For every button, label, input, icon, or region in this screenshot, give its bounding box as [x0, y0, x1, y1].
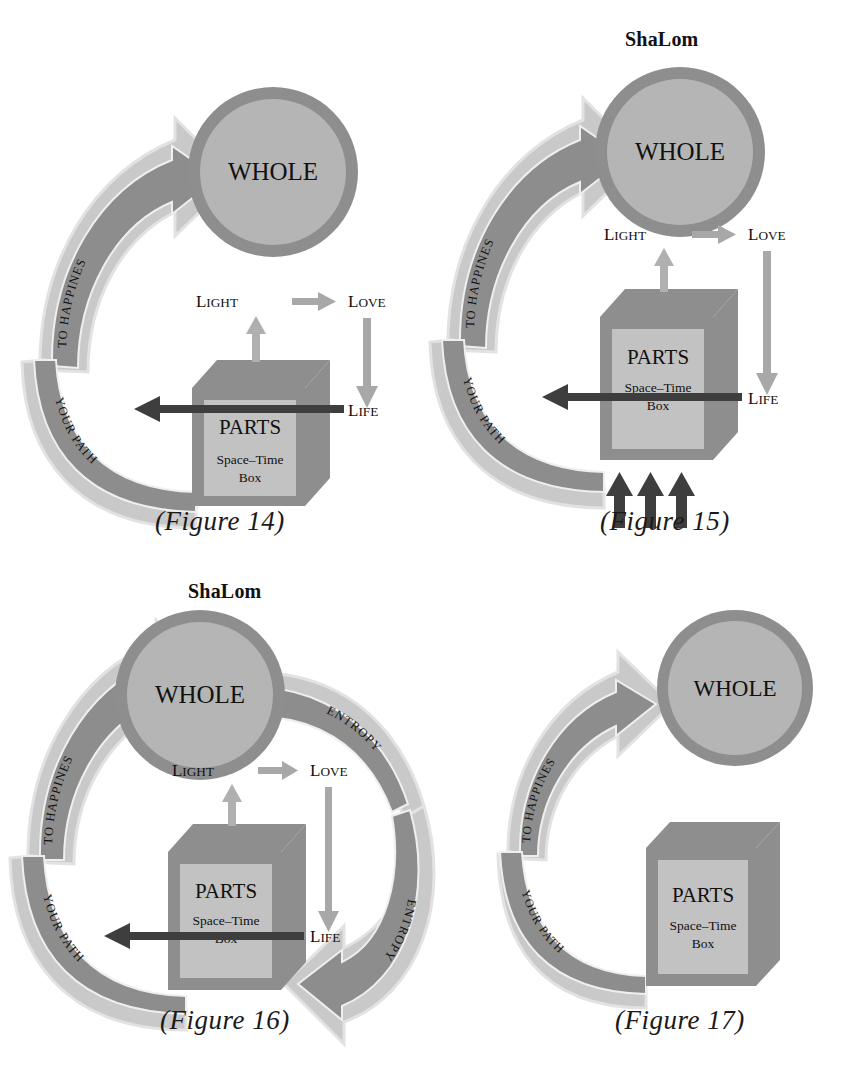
light-to-love-arrow — [258, 761, 298, 780]
life-label: LIFE — [310, 927, 340, 946]
love-to-life-arrow — [756, 251, 778, 395]
whole-circle: WHOLE — [657, 610, 813, 766]
your-path-arrow: YOUR PATH — [10, 856, 190, 1030]
shalom-heading-figure-15: ShaLom — [625, 28, 698, 51]
space-time-line1: Space–Time — [670, 918, 737, 933]
parts-label: PARTS — [627, 345, 689, 369]
parts-label: PARTS — [195, 879, 257, 903]
your-path-arrow: YOUR PATH — [22, 360, 200, 528]
figure-17-caption: (Figure 17) — [615, 1005, 745, 1036]
figure-sheet: TO HAPPINES YOUR PATH WHOLE — [0, 0, 861, 1082]
whole-label: WHOLE — [635, 138, 725, 165]
parts-label: PARTS — [219, 415, 281, 439]
whole-circle: WHOLE — [188, 87, 358, 257]
space-time-line1: Space–Time — [193, 913, 260, 928]
light-label: LIGHT — [604, 225, 646, 244]
love-label: LOVE — [310, 761, 348, 780]
light-up-arrow — [222, 784, 242, 826]
space-time-line2: Box — [239, 470, 262, 485]
light-to-love-arrow — [292, 292, 336, 311]
love-to-life-arrow — [356, 318, 378, 408]
whole-circle: WHOLE — [115, 610, 285, 780]
figure-14-canvas: TO HAPPINES YOUR PATH WHOLE — [0, 60, 430, 560]
parts-box: PARTS Space–Time Box — [168, 824, 306, 990]
space-time-line1: Space–Time — [217, 452, 284, 467]
light-up-arrow — [654, 248, 674, 292]
your-path-arrow: YOUR PATH — [498, 852, 650, 1008]
parts-label: PARTS — [672, 883, 734, 907]
light-label: LIGHT — [172, 761, 214, 780]
light-up-arrow — [246, 316, 266, 362]
shalom-heading-figure-16: ShaLom — [188, 580, 261, 603]
space-time-line1: Space–Time — [625, 380, 692, 395]
light-label: LIGHT — [196, 292, 238, 311]
figure-16-caption: (Figure 16) — [160, 1005, 290, 1036]
whole-circle: WHOLE — [595, 67, 765, 237]
love-label: LOVE — [748, 225, 786, 244]
figure-15-caption: (Figure 15) — [600, 506, 730, 537]
space-time-line2: Box — [692, 936, 715, 951]
love-to-life-arrow — [318, 787, 339, 932]
figure-14-caption: (Figure 14) — [155, 506, 285, 537]
whole-label: WHOLE — [693, 676, 776, 701]
parts-box: PARTS Space–Time Box — [192, 360, 330, 506]
entropy-lower-band: ENTROPY — [284, 806, 434, 1044]
figure-15: TO HAPPINES YOUR PATH WHOLE — [430, 20, 861, 560]
figure-14: TO HAPPINES YOUR PATH WHOLE — [0, 60, 430, 560]
your-path-arrow: YOUR PATH — [430, 340, 608, 508]
whole-label: WHOLE — [155, 681, 245, 708]
parts-box: PARTS Space–Time Box — [646, 822, 780, 986]
figure-15-canvas: TO HAPPINES YOUR PATH WHOLE — [430, 20, 861, 560]
life-label: LIFE — [748, 389, 778, 408]
love-label: LOVE — [348, 292, 386, 311]
to-happines-arrow: TO HAPPINES — [508, 652, 672, 860]
life-label: LIFE — [348, 401, 378, 420]
whole-label: WHOLE — [228, 158, 318, 185]
parts-box: PARTS Space–Time Box — [600, 289, 738, 460]
